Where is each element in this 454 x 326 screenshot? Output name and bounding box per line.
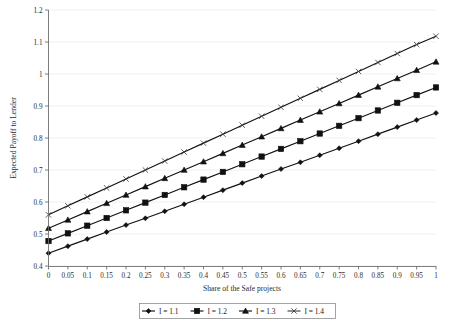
x-tick-label: 0.7 bbox=[315, 272, 324, 280]
legend-label: I = 1.3 bbox=[256, 307, 276, 316]
x-tick-label: 0.1 bbox=[83, 272, 92, 280]
y-tick-label: 1.2 bbox=[34, 7, 43, 15]
y-tick-label: 0.7 bbox=[34, 167, 43, 175]
x-tick-label: 0.5 bbox=[238, 272, 247, 280]
marker-square bbox=[278, 146, 283, 151]
x-axis-ticks-group bbox=[49, 266, 437, 270]
x-tick-label: 0.85 bbox=[372, 272, 385, 280]
marker-square bbox=[104, 215, 109, 220]
marker-square bbox=[336, 123, 341, 128]
x-tick-label: 0.4 bbox=[199, 272, 208, 280]
marker-square bbox=[143, 200, 148, 205]
marker-square bbox=[123, 208, 128, 213]
x-tick-label: 0.45 bbox=[217, 272, 230, 280]
marker-square bbox=[298, 139, 303, 144]
marker-square bbox=[317, 131, 322, 136]
y-tick-label: 1.1 bbox=[34, 39, 43, 47]
marker-square bbox=[201, 177, 206, 182]
y-tick-label: 0.4 bbox=[34, 263, 43, 271]
x-tick-label: 0.8 bbox=[354, 272, 363, 280]
marker-square bbox=[375, 108, 380, 113]
marker-square bbox=[162, 192, 167, 197]
x-tick-label: 0 bbox=[47, 272, 51, 280]
legend-label: I = 1.4 bbox=[305, 307, 325, 316]
y-tick-label: 0.5 bbox=[34, 231, 43, 239]
marker-square bbox=[259, 154, 264, 159]
y-tick-label: 0.6 bbox=[34, 199, 43, 207]
y-axis-tick-labels-group: 0.40.50.60.70.80.911.11.2 bbox=[34, 7, 43, 271]
marker-square bbox=[65, 231, 70, 236]
marker-square bbox=[395, 100, 400, 105]
y-tick-label: 0.8 bbox=[34, 135, 43, 143]
legend: I = 1.1I = 1.2I = 1.3I = 1.4 bbox=[140, 304, 336, 319]
x-tick-label: 0.55 bbox=[255, 272, 268, 280]
x-tick-label: 0.95 bbox=[410, 272, 423, 280]
x-tick-label: 0.3 bbox=[160, 272, 169, 280]
marker-square bbox=[181, 185, 186, 190]
y-tick-label: 0.9 bbox=[34, 103, 43, 111]
x-tick-label: 0.2 bbox=[122, 272, 131, 280]
x-tick-label: 0.35 bbox=[178, 272, 191, 280]
x-tick-label: 1 bbox=[434, 272, 438, 280]
marker-square bbox=[414, 92, 419, 97]
x-tick-label: 0.25 bbox=[139, 272, 152, 280]
x-axis-title: Share of the Safe projects bbox=[203, 284, 281, 293]
x-tick-label: 0.75 bbox=[333, 272, 346, 280]
x-tick-label: 0.6 bbox=[277, 272, 286, 280]
x-tick-label: 0.65 bbox=[294, 272, 307, 280]
x-axis-tick-labels-group: 00.050.10.150.20.250.30.350.40.450.50.55… bbox=[47, 272, 439, 280]
y-tick-label: 1 bbox=[39, 71, 43, 79]
marker-square bbox=[356, 115, 361, 120]
x-tick-label: 0.15 bbox=[100, 272, 113, 280]
marker-square bbox=[194, 308, 199, 313]
chart-container: 0.40.50.60.70.80.911.11.2 00.050.10.150.… bbox=[0, 0, 454, 326]
marker-square bbox=[85, 223, 90, 228]
marker-square bbox=[220, 169, 225, 174]
expected-payoff-line-chart: 0.40.50.60.70.80.911.11.2 00.050.10.150.… bbox=[0, 0, 454, 326]
legend-label: I = 1.1 bbox=[159, 307, 179, 316]
x-tick-label: 0.9 bbox=[393, 272, 402, 280]
marker-square bbox=[433, 85, 438, 90]
x-tick-label: 0.05 bbox=[62, 272, 75, 280]
y-axis-title: Expected Payoff to Lender bbox=[9, 97, 18, 179]
legend-label: I = 1.2 bbox=[208, 307, 228, 316]
marker-square bbox=[240, 162, 245, 167]
